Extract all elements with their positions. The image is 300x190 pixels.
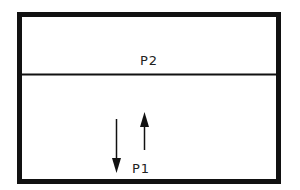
up-arrowhead xyxy=(140,112,149,127)
down-arrowhead xyxy=(112,158,121,173)
down-arrow xyxy=(112,119,121,173)
outer-box xyxy=(20,15,279,182)
upper-region-label: P2 xyxy=(140,53,158,68)
up-arrow xyxy=(140,112,149,150)
diagram-canvas: P2 P1 xyxy=(0,0,300,190)
lower-region-label: P1 xyxy=(132,161,150,176)
